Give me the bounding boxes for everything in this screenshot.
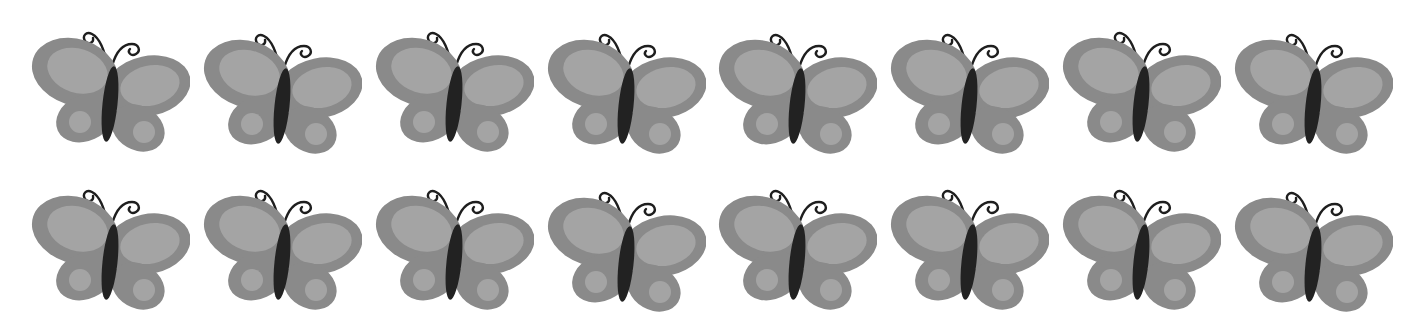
butterfly-icon xyxy=(202,16,362,156)
butterfly-icon xyxy=(374,172,534,312)
butterfly-icon xyxy=(546,16,706,156)
butterfly-icon xyxy=(889,16,1049,156)
butterfly-icon xyxy=(1061,14,1221,154)
butterfly-grid xyxy=(0,0,1417,326)
butterfly-icon xyxy=(1233,174,1393,314)
butterfly-icon xyxy=(30,172,190,312)
butterfly-icon xyxy=(202,172,362,312)
butterfly-icon xyxy=(374,14,534,154)
butterfly-icon xyxy=(1061,172,1221,312)
butterfly-icon xyxy=(717,172,877,312)
butterfly-icon xyxy=(30,14,190,154)
butterfly-icon xyxy=(717,16,877,156)
butterfly-icon xyxy=(1233,16,1393,156)
butterfly-icon xyxy=(889,172,1049,312)
butterfly-icon xyxy=(546,174,706,314)
